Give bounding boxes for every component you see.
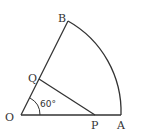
label-A: A <box>116 119 126 132</box>
segment-QP <box>39 79 95 115</box>
sector-diagram: O A B P Q 60° <box>0 0 142 135</box>
label-B: B <box>58 12 66 25</box>
angle-label: 60° <box>40 99 56 109</box>
label-P: P <box>91 119 99 132</box>
arc-AB <box>68 21 121 115</box>
label-Q: Q <box>28 72 37 85</box>
label-O: O <box>5 111 14 124</box>
angle-arc <box>30 98 40 115</box>
